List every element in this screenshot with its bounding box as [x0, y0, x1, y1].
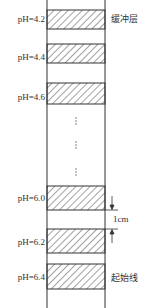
- ph-label: pH=4.2: [18, 14, 45, 24]
- ph-label: pH=6.0: [18, 193, 45, 203]
- ph-label: pH=4.6: [18, 92, 45, 102]
- column-diagram: [0, 0, 153, 308]
- hatched-band: [47, 83, 105, 104]
- ph-label: pH=6.4: [18, 272, 45, 282]
- buffer-layer-label: 缓冲层: [111, 14, 138, 24]
- hatched-band: [47, 229, 105, 253]
- hatched-band: [47, 264, 105, 289]
- hatched-band: [47, 44, 105, 63]
- hatched-band: [47, 10, 105, 29]
- ph-label: pH=6.2: [18, 237, 45, 247]
- start-line-label: 起始线: [111, 273, 138, 283]
- ph-label: pH=4.4: [18, 52, 45, 62]
- spacing-label: 1cm: [113, 214, 129, 224]
- hatched-bands: [47, 10, 105, 289]
- ellipsis-dots: [75, 117, 76, 175]
- hatched-band: [47, 186, 105, 210]
